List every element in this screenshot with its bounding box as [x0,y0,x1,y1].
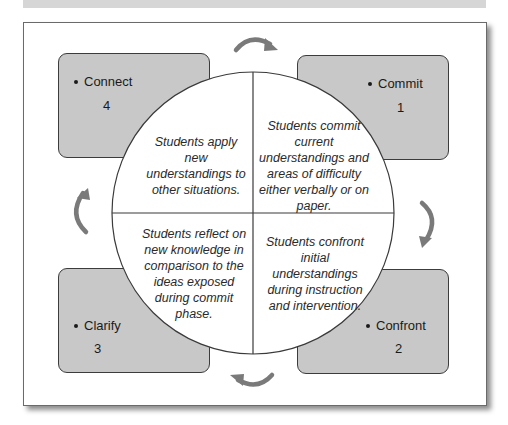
quadrant-text-confront: Students confront initial understandings… [258,234,372,314]
left-arrowhead-icon [77,188,90,200]
right-arrowhead-icon [419,236,432,248]
bottom-arrowhead-icon [230,374,244,386]
cycle-graphic [0,0,508,425]
quadrant-text-clarify: Students reflect on new knowledge in com… [138,226,250,322]
quadrant-text-connect: Students apply new understandings to oth… [142,134,250,198]
top-arrowhead-icon [264,38,278,51]
quadrant-text-commit: Students commit current understandings a… [258,118,370,214]
right-clockwise-arrow-icon [422,203,432,240]
